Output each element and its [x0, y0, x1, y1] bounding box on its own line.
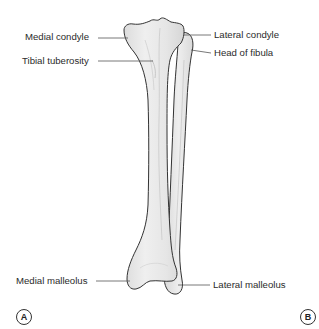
panel-badge-b: B: [300, 309, 316, 325]
label-lateral-condyle: Lateral condyle: [214, 29, 279, 40]
label-head-of-fibula: Head of fibula: [214, 47, 273, 58]
tibia-fibula-diagram: Medial condyle Tibial tuberosity Lateral…: [0, 0, 319, 329]
label-medial-condyle: Medial condyle: [25, 31, 89, 42]
panel-badge-a: A: [16, 309, 32, 325]
label-medial-malleolus: Medial malleolus: [16, 275, 87, 286]
leader-head-of-fibula: [191, 50, 211, 53]
label-tibial-tuberosity: Tibial tuberosity: [22, 55, 89, 66]
label-lateral-malleolus: Lateral malleolus: [213, 279, 286, 290]
